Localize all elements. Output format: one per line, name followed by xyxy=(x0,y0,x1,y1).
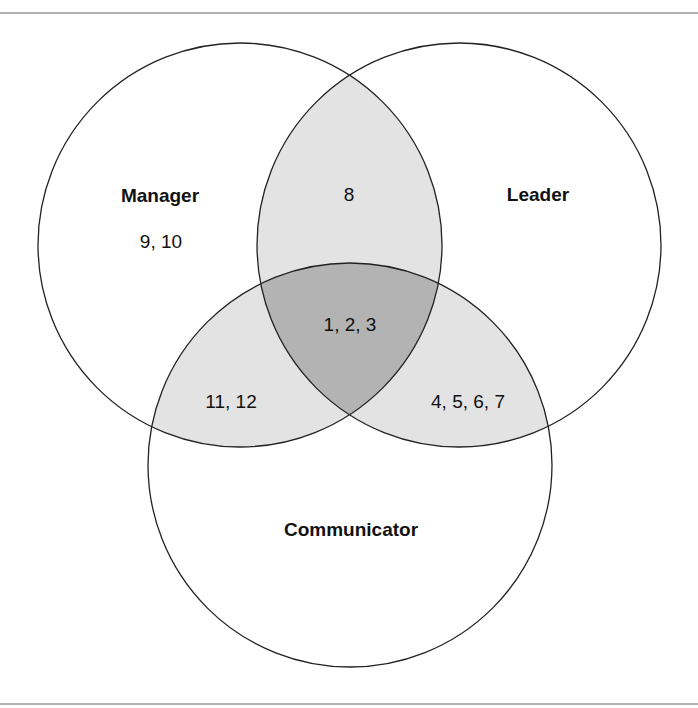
region-manager-leader: 8 xyxy=(344,184,355,205)
venn-diagram: Manager Leader Communicator 9, 10 8 1, 2… xyxy=(0,0,698,708)
region-leader-communicator: 4, 5, 6, 7 xyxy=(431,391,505,412)
region-manager-communicator: 11, 12 xyxy=(205,391,256,412)
region-all-three: 1, 2, 3 xyxy=(324,314,377,335)
set-label-manager: Manager xyxy=(121,185,200,206)
region-manager-only: 9, 10 xyxy=(140,231,182,252)
set-label-leader: Leader xyxy=(507,184,570,205)
set-label-communicator: Communicator xyxy=(284,519,419,540)
